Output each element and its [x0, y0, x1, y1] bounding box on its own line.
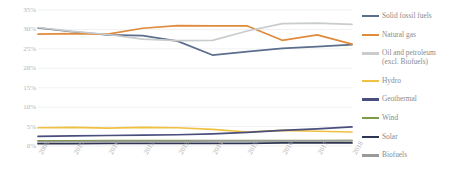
x-axis-tick-label: 2012	[142, 140, 156, 156]
legend-label: Oil and petroleum (excl. Biofuels)	[382, 48, 436, 66]
legend-swatch	[362, 15, 379, 17]
legend-swatch	[362, 154, 379, 156]
legend-label: Solid fossil fuels	[382, 11, 432, 20]
legend-item[interactable]: Biofuels	[362, 150, 458, 159]
legend-swatch	[362, 52, 379, 54]
x-axis-tick-label: 2010	[72, 140, 86, 156]
legend-swatch	[362, 117, 379, 119]
x-axis-tick-label: 2011	[107, 140, 121, 156]
x-axis-tick-label: 2013	[177, 140, 191, 156]
legend-item[interactable]: Natural gas	[362, 30, 458, 39]
x-axis-tick-label: 2009	[37, 140, 51, 156]
line-chart: 0%5%10%15%20%25%30%35% 20092010201120122…	[0, 0, 458, 187]
legend-item[interactable]: Solar	[362, 132, 458, 141]
x-axis-tick-label: 2015	[246, 140, 260, 156]
legend-item[interactable]: Geothermal	[362, 94, 458, 103]
legend-swatch	[362, 80, 379, 82]
legend-label: Geothermal	[382, 94, 417, 103]
legend-label: Wind	[382, 113, 398, 122]
legend-item[interactable]: Hydro	[362, 76, 458, 85]
legend-swatch	[362, 136, 379, 138]
x-axis-tick-label: 2014	[211, 140, 225, 156]
legend-label: Solar	[382, 132, 398, 141]
x-axis-tick-label: 2016	[281, 140, 295, 156]
x-axis: 2009201020112012201320142015201620172018	[0, 0, 360, 187]
legend-item[interactable]: Solid fossil fuels	[362, 11, 458, 20]
plot-area: 0%5%10%15%20%25%30%35% 20092010201120122…	[0, 0, 360, 187]
legend-label: Biofuels	[382, 150, 407, 159]
legend-swatch	[362, 34, 379, 36]
legend-swatch	[362, 98, 379, 100]
legend-label: Hydro	[382, 76, 401, 85]
legend-item[interactable]: Wind	[362, 113, 458, 122]
legend: Solid fossil fuelsNatural gasOil and pet…	[362, 0, 458, 187]
x-axis-tick-label: 2017	[316, 140, 330, 156]
legend-label: Natural gas	[382, 30, 416, 39]
legend-item[interactable]: Oil and petroleum (excl. Biofuels)	[362, 48, 458, 66]
